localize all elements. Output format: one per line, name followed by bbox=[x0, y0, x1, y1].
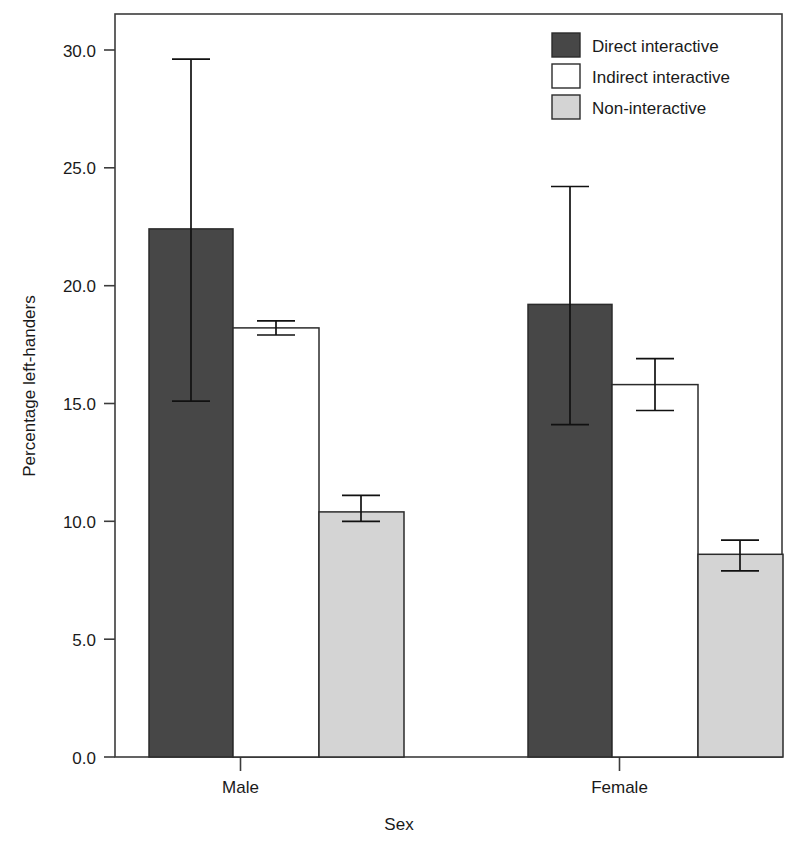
chart-canvas: 30.0 25.0 20.0 15.0 10.0 5.0 0.0 Percent… bbox=[0, 0, 799, 846]
x-tick-label-male: Male bbox=[222, 778, 259, 797]
legend-label-direct-interactive: Direct interactive bbox=[592, 37, 719, 56]
bar-male-non-interactive[interactable] bbox=[319, 512, 404, 757]
legend-swatch-direct-interactive bbox=[552, 33, 580, 57]
legend-swatch-non-interactive bbox=[552, 95, 580, 119]
y-axis-ticks bbox=[104, 50, 115, 757]
bar-male-indirect-interactive[interactable] bbox=[233, 328, 319, 757]
bar-group-female bbox=[528, 187, 783, 758]
bar-group-male bbox=[149, 59, 404, 757]
x-tick-label-female: Female bbox=[591, 778, 648, 797]
x-axis-ticks bbox=[241, 757, 620, 771]
y-tick-label-20: 20.0 bbox=[63, 277, 96, 296]
bar-female-indirect-interactive[interactable] bbox=[612, 385, 698, 757]
y-tick-label-10: 10.0 bbox=[63, 513, 96, 532]
y-tick-label-25: 25.0 bbox=[63, 159, 96, 178]
y-tick-label-30: 30.0 bbox=[63, 42, 96, 61]
legend-label-indirect-interactive: Indirect interactive bbox=[592, 68, 730, 87]
x-axis-title: Sex bbox=[384, 815, 414, 834]
y-tick-label-15: 15.0 bbox=[63, 395, 96, 414]
bar-chart-figure: 30.0 25.0 20.0 15.0 10.0 5.0 0.0 Percent… bbox=[0, 0, 799, 846]
y-tick-label-5: 5.0 bbox=[72, 631, 96, 650]
y-axis-title: Percentage left-handers bbox=[20, 295, 39, 476]
legend-label-non-interactive: Non-interactive bbox=[592, 99, 706, 118]
bar-female-non-interactive[interactable] bbox=[698, 554, 783, 757]
legend-swatch-indirect-interactive bbox=[552, 64, 580, 88]
legend: Direct interactive Indirect interactive … bbox=[552, 33, 730, 119]
y-tick-label-0: 0.0 bbox=[72, 749, 96, 768]
y-axis-tick-labels: 30.0 25.0 20.0 15.0 10.0 5.0 0.0 bbox=[63, 42, 96, 768]
